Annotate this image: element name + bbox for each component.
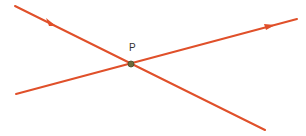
intersecting-lines-diagram: P bbox=[0, 0, 306, 136]
intersection-point-p bbox=[128, 61, 134, 67]
line-2 bbox=[16, 19, 297, 94]
arrowhead-line-2 bbox=[264, 24, 275, 30]
point-label-p: P bbox=[129, 42, 136, 53]
